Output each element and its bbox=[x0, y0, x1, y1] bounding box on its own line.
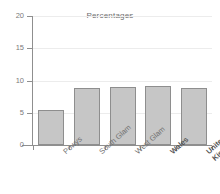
bar-powys bbox=[38, 110, 64, 145]
bar-chart: Percentages 05101520 PowysSouth GlamWest… bbox=[0, 0, 220, 194]
gridline-15 bbox=[33, 48, 212, 49]
y-tick-mark-15 bbox=[27, 48, 32, 49]
y-axis-line bbox=[32, 16, 33, 146]
y-tick-label-10: 10 bbox=[16, 77, 24, 85]
y-tick-label-5: 5 bbox=[20, 109, 24, 117]
gridline-20 bbox=[33, 16, 212, 17]
y-tick-label-15: 15 bbox=[16, 44, 24, 52]
y-tick-mark-10 bbox=[27, 81, 32, 82]
y-tick-mark-5 bbox=[27, 113, 32, 114]
gridline-10 bbox=[33, 81, 212, 82]
x-tick-mark-0 bbox=[33, 146, 34, 150]
y-tick-label-20: 20 bbox=[16, 12, 24, 20]
y-tick-mark-0 bbox=[27, 145, 32, 146]
y-tick-mark-20 bbox=[27, 16, 32, 17]
y-tick-label-0: 0 bbox=[20, 141, 24, 149]
